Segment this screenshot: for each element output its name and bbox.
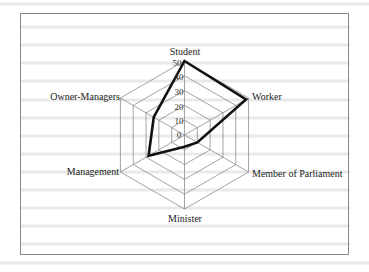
axis-label-worker: Worker <box>252 91 282 102</box>
tick-0: 0 <box>177 130 182 140</box>
radar-chart: 0 10 20 30 40 50 Student Worker Member o… <box>0 0 369 272</box>
axis-spoke <box>185 98 249 135</box>
axis-label-minister: Minister <box>168 213 203 224</box>
tick-30: 30 <box>175 87 185 97</box>
tick-20: 20 <box>175 102 185 112</box>
tick-10: 10 <box>175 116 185 126</box>
tick-50: 50 <box>173 58 183 68</box>
axis-label-owner-managers: Owner-Managers <box>50 91 120 102</box>
axis-label-management: Management <box>67 166 119 177</box>
axis-label-student: Student <box>170 46 201 57</box>
axis-spoke <box>185 135 249 172</box>
tick-40: 40 <box>175 72 185 82</box>
radar-axes <box>120 61 248 209</box>
axis-label-member-of-parliament: Member of Parliament <box>252 168 343 179</box>
